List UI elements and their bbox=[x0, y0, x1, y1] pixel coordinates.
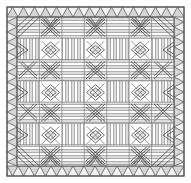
diamond-block bbox=[131, 41, 149, 59]
diamond-block bbox=[42, 84, 60, 102]
diamond-block bbox=[87, 84, 105, 102]
diamond-block bbox=[87, 126, 105, 144]
quilt-pattern-svg bbox=[0, 0, 191, 183]
diamond-block bbox=[87, 41, 105, 59]
artwork-canvas bbox=[0, 0, 191, 183]
diamond-block bbox=[42, 126, 60, 144]
interior-field bbox=[17, 17, 174, 166]
diamond-block bbox=[42, 41, 60, 59]
diamond-block bbox=[131, 84, 149, 102]
diamond-block bbox=[131, 126, 149, 144]
